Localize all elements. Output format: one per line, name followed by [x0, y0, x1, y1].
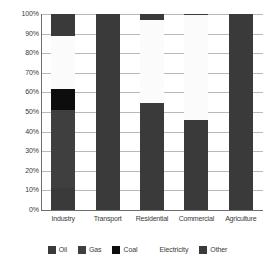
bar-segment-electricity[interactable] [140, 20, 164, 103]
bar-segment-other[interactable] [51, 14, 75, 36]
legend-label: Gas [89, 246, 102, 254]
legend-swatch-icon [148, 246, 156, 254]
y-axis-tick-label: 90% [3, 30, 39, 37]
x-axis-tick-label: Industry [41, 214, 85, 226]
chart-legend: OilGasCoalElectricityOther [0, 243, 275, 257]
stacked-bar-chart: 100%90%80%70%60%50%40%30%20%10%0% Indust… [0, 0, 275, 266]
legend-swatch-icon [48, 246, 56, 254]
bar-segment-oil[interactable] [51, 188, 75, 210]
bar-segment-oil[interactable] [229, 20, 253, 210]
stacked-bar[interactable] [140, 14, 164, 210]
y-axis-tick-label: 20% [3, 167, 39, 174]
legend-item-oil[interactable]: Oil [48, 246, 67, 254]
x-axis-line [41, 210, 263, 211]
x-axis-tick-label: Transport [85, 214, 129, 226]
y-axis-tick-label: 50% [3, 108, 39, 115]
legend-item-gas[interactable]: Gas [78, 246, 102, 254]
x-axis-tick-label: Residential [130, 214, 174, 226]
legend-swatch-icon [112, 246, 120, 254]
bar-column-industry[interactable] [41, 14, 85, 210]
bar-segment-electricity[interactable] [184, 15, 208, 120]
bar-segment-oil[interactable] [140, 103, 164, 210]
bar-segment-gas[interactable] [51, 110, 75, 188]
x-axis-tick-labels: IndustryTransportResidentialCommercialAg… [41, 214, 263, 226]
y-axis-tick-label: 60% [3, 88, 39, 95]
legend-label: Electricity [159, 246, 188, 254]
legend-label: Oil [59, 246, 67, 254]
bar-segment-oil[interactable] [96, 14, 120, 210]
legend-item-electricity[interactable]: Electricity [148, 246, 188, 254]
bar-segment-coal[interactable] [51, 89, 75, 111]
stacked-bar[interactable] [229, 14, 253, 210]
bar-segment-oil[interactable] [184, 120, 208, 210]
x-axis-tick-label: Commercial [174, 214, 218, 226]
bar-column-agriculture[interactable] [219, 14, 263, 210]
y-axis-tick-label: 40% [3, 128, 39, 135]
stacked-bar[interactable] [96, 14, 120, 210]
y-axis-tick-label: 10% [3, 186, 39, 193]
legend-swatch-icon [199, 246, 207, 254]
y-axis-tick-label: 30% [3, 147, 39, 154]
y-axis-tick-labels: 100%90%80%70%60%50%40%30%20%10%0% [0, 14, 39, 210]
bar-column-residential[interactable] [130, 14, 174, 210]
y-axis-tick-label: 70% [3, 69, 39, 76]
legend-item-coal[interactable]: Coal [112, 246, 137, 254]
bar-segment-electricity[interactable] [51, 36, 75, 89]
y-axis-tick-label: 0% [3, 206, 39, 213]
stacked-bar[interactable] [184, 14, 208, 210]
legend-item-other[interactable]: Other [199, 246, 227, 254]
legend-label: Coal [123, 246, 137, 254]
legend-swatch-icon [78, 246, 86, 254]
y-axis-tick-label: 100% [3, 10, 39, 17]
bar-column-commercial[interactable] [174, 14, 218, 210]
legend-label: Other [210, 246, 227, 254]
bar-column-transport[interactable] [85, 14, 129, 210]
bar-group [41, 14, 263, 210]
y-axis-tick-label: 80% [3, 49, 39, 56]
stacked-bar[interactable] [51, 14, 75, 210]
x-axis-tick-label: Agriculture [219, 214, 263, 226]
